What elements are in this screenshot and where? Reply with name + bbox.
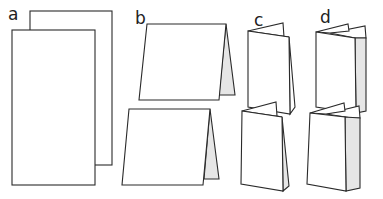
panel-d-top-fold [316,24,366,113]
front-sheet [12,30,95,185]
front-leaf [316,32,356,113]
panel-b-bottom-fold [122,109,219,185]
front-leaf [307,113,346,191]
front-leaf [122,109,210,185]
fold-illustrations [0,0,383,199]
back-leaf-1 [316,24,349,33]
front-leaf [139,24,226,100]
panel-b-top-fold [139,24,235,100]
front-leaf [241,111,283,191]
panel-c-bottom-fold [241,102,289,191]
shaded-leaf [345,117,360,191]
front-leaf [248,31,290,114]
shaded-leaf [355,38,366,113]
panel-a-sheets [12,11,112,185]
panel-c-top-fold [248,23,295,114]
fold-diagram: a b c d [0,0,383,199]
panel-d-bottom-fold [307,103,360,191]
